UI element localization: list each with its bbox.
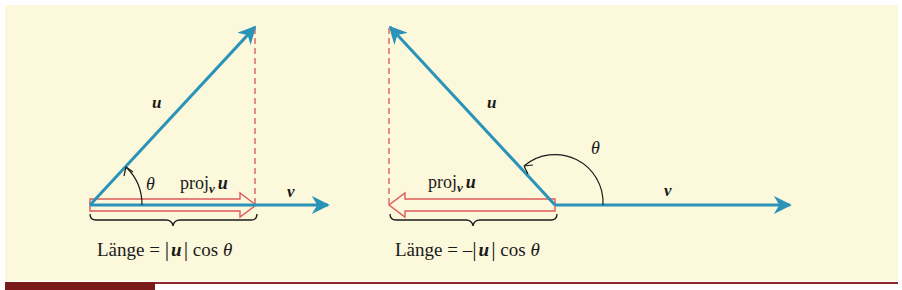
length-formula: Länge = –|u| cos θ bbox=[395, 236, 540, 261]
footer-maroon-block bbox=[5, 282, 155, 290]
label-v: v bbox=[287, 182, 295, 201]
label-theta: θ bbox=[591, 138, 600, 158]
label-u: u bbox=[487, 93, 496, 112]
vector-projection-figure: u θ projvu v Länge = |u| cos θ u θ projv… bbox=[0, 0, 902, 290]
label-v: v bbox=[664, 181, 672, 200]
label-theta: θ bbox=[146, 174, 155, 194]
label-u: u bbox=[152, 93, 161, 112]
label-proj: projvu bbox=[180, 173, 228, 196]
length-formula: Länge = |u| cos θ bbox=[97, 236, 232, 261]
label-proj: projvu bbox=[428, 172, 476, 195]
